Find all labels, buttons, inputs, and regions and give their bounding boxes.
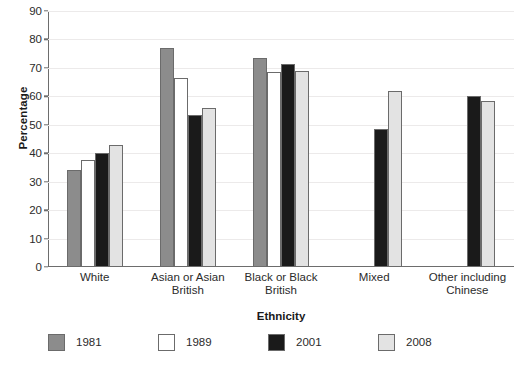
x-axis-category-label-line: Chinese (423, 284, 512, 297)
x-axis-category-label: White (48, 271, 141, 305)
x-axis-category-label: Asian or AsianBritish (141, 271, 234, 305)
bar-group-bars (48, 11, 141, 267)
bar (188, 115, 202, 267)
bar-chart: Percentage 0102030405060708090 WhiteAsia… (0, 0, 526, 371)
bar (481, 101, 495, 267)
x-axis-category-label-line: Black or Black (236, 271, 325, 284)
bar-group-bars (328, 11, 421, 267)
bar-group (234, 11, 327, 267)
bar-group (48, 11, 141, 267)
bar (253, 58, 267, 267)
bar-slot (109, 11, 123, 267)
bar-slot (374, 11, 388, 267)
bar-slot (439, 11, 453, 267)
x-axis-category-label-line: Mixed (330, 271, 419, 284)
legend-label: 1989 (186, 336, 212, 348)
bar-group-bars (141, 11, 234, 267)
bar-slot (67, 11, 81, 267)
x-axis-category-labels: WhiteAsian or AsianBritishBlack or Black… (48, 271, 514, 305)
legend: 1981198920012008 (48, 330, 488, 354)
bar-slot (295, 11, 309, 267)
y-axis-tick-label: 30 (29, 176, 42, 188)
bar-group-bars (421, 11, 514, 267)
x-axis-category-label-line: British (236, 284, 325, 297)
bar-slot (81, 11, 95, 267)
x-axis-category-label: Other includingChinese (421, 271, 514, 305)
legend-label: 1981 (76, 336, 102, 348)
x-axis-category-label-line: Other including (423, 271, 512, 284)
plot-area: 0102030405060708090 (48, 11, 514, 267)
bar-slot (481, 11, 495, 267)
bar (467, 96, 481, 267)
x-axis-category-label: Black or BlackBritish (234, 271, 327, 305)
x-axis-category-label-line: Asian or Asian (143, 271, 232, 284)
bar-slot (253, 11, 267, 267)
bar-groups (48, 11, 514, 267)
bar-slot (281, 11, 295, 267)
bar-group-bars (234, 11, 327, 267)
y-axis-tick-label: 0 (36, 261, 42, 273)
bar-slot (453, 11, 467, 267)
bar (388, 91, 402, 267)
x-axis-category-label-line: White (50, 271, 139, 284)
bar (267, 72, 281, 267)
x-axis-category-label: Mixed (328, 271, 421, 305)
y-axis-tick-label: 20 (29, 204, 42, 216)
legend-item: 2008 (378, 330, 488, 354)
bar (202, 108, 216, 267)
bar (109, 145, 123, 267)
legend-item: 2001 (268, 330, 378, 354)
legend-item: 1989 (158, 330, 268, 354)
bar (81, 160, 95, 267)
bar (67, 170, 81, 267)
y-axis-tick-label: 80 (29, 33, 42, 45)
bar (160, 48, 174, 267)
bar-slot (95, 11, 109, 267)
bar-slot (174, 11, 188, 267)
y-axis-tick-label: 10 (29, 233, 42, 245)
legend-item: 1981 (48, 330, 158, 354)
bar (281, 64, 295, 267)
y-axis-tick-label: 70 (29, 62, 42, 74)
bar-slot (267, 11, 281, 267)
bar-slot (188, 11, 202, 267)
bar-slot (360, 11, 374, 267)
bar-group (141, 11, 234, 267)
y-axis-tick-label: 50 (29, 119, 42, 131)
bar-slot (160, 11, 174, 267)
legend-label: 2008 (406, 336, 432, 348)
bar-slot (202, 11, 216, 267)
legend-label: 2001 (296, 336, 322, 348)
bar-slot (467, 11, 481, 267)
bar-group (421, 11, 514, 267)
bar-slot (388, 11, 402, 267)
legend-swatch (378, 334, 395, 351)
legend-swatch (268, 334, 285, 351)
x-axis-title: Ethnicity (48, 310, 514, 322)
bar (95, 153, 109, 267)
y-axis-title: Percentage (17, 73, 29, 163)
bar (174, 78, 188, 267)
bar (374, 129, 388, 267)
y-axis-tick-label: 90 (29, 5, 42, 17)
legend-swatch (158, 334, 175, 351)
bar-slot (346, 11, 360, 267)
y-axis-tick-label: 60 (29, 90, 42, 102)
bar-group (328, 11, 421, 267)
legend-swatch (48, 334, 65, 351)
x-axis-category-label-line: British (143, 284, 232, 297)
y-axis-tick-label: 40 (29, 147, 42, 159)
bar (295, 71, 309, 267)
